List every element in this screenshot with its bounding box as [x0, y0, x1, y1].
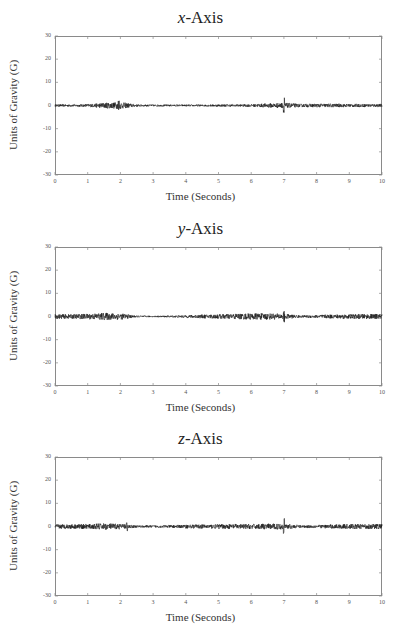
- x-tick-label: 2: [112, 389, 128, 395]
- x-tick-label: 4: [178, 178, 194, 184]
- x-tick-label: 9: [341, 599, 357, 605]
- x-tick-label: 1: [80, 389, 96, 395]
- x-tick-label: 3: [145, 389, 161, 395]
- x-tick-label: 10: [374, 178, 390, 184]
- y-tick-label: 10: [29, 289, 51, 295]
- x-tick-label: 8: [309, 178, 325, 184]
- axis-title-rest: -Axis: [185, 8, 223, 27]
- y-tick-label: -10: [29, 125, 51, 131]
- x-tick-label: 7: [276, 389, 292, 395]
- x-axis-label: Time (Seconds): [0, 611, 401, 623]
- axis-title-rest: -Axis: [185, 219, 223, 238]
- x-tick-label: 1: [80, 178, 96, 184]
- x-tick-label: 9: [341, 389, 357, 395]
- x-tick-label: 0: [47, 389, 63, 395]
- x-tick-label: 5: [211, 178, 227, 184]
- y-tick-label: 30: [29, 32, 51, 38]
- x-tick-label: 8: [309, 389, 325, 395]
- x-tick-label: 10: [374, 599, 390, 605]
- y-tick-label: 0: [29, 102, 51, 108]
- signal-trace: [55, 247, 382, 386]
- y-tick-label: 10: [29, 78, 51, 84]
- x-tick-label: 4: [178, 389, 194, 395]
- y-tick-label: -20: [29, 359, 51, 365]
- y-axis-label: Units of Gravity (G): [7, 241, 19, 391]
- x-axis-label: Time (Seconds): [0, 401, 401, 413]
- y-tick-label: 30: [29, 243, 51, 249]
- chart-title: z-Axis: [0, 429, 401, 449]
- y-tick-label: 0: [29, 523, 51, 529]
- x-tick-label: 3: [145, 599, 161, 605]
- y-tick-label: 0: [29, 313, 51, 319]
- x-tick-label: 6: [243, 599, 259, 605]
- x-tick-label: 5: [211, 389, 227, 395]
- x-tick-label: 0: [47, 599, 63, 605]
- x-tick-label: 7: [276, 178, 292, 184]
- x-tick-label: 2: [112, 599, 128, 605]
- y-tick-label: -20: [29, 569, 51, 575]
- x-tick-label: 6: [243, 389, 259, 395]
- signal-trace: [55, 457, 382, 596]
- x-tick-label: 5: [211, 599, 227, 605]
- x-tick-label: 9: [341, 178, 357, 184]
- x-axis-label: Time (Seconds): [0, 190, 401, 202]
- x-tick-label: 10: [374, 389, 390, 395]
- x-tick-label: 0: [47, 178, 63, 184]
- chart-title: x-Axis: [0, 8, 401, 28]
- y-tick-label: -10: [29, 336, 51, 342]
- x-tick-label: 8: [309, 599, 325, 605]
- y-tick-label: -30: [29, 592, 51, 598]
- y-tick-label: -20: [29, 148, 51, 154]
- signal-trace: [55, 36, 382, 175]
- x-tick-label: 1: [80, 599, 96, 605]
- y-tick-label: 20: [29, 55, 51, 61]
- x-tick-label: 7: [276, 599, 292, 605]
- x-tick-label: 4: [178, 599, 194, 605]
- y-axis-label: Units of Gravity (G): [7, 30, 19, 180]
- y-tick-label: -30: [29, 382, 51, 388]
- axis-variable: z: [178, 429, 185, 448]
- y-tick-label: -30: [29, 171, 51, 177]
- chart-title: y-Axis: [0, 219, 401, 239]
- y-tick-label: 30: [29, 453, 51, 459]
- x-tick-label: 2: [112, 178, 128, 184]
- y-tick-label: 20: [29, 476, 51, 482]
- axis-title-rest: -Axis: [185, 429, 223, 448]
- x-tick-label: 6: [243, 178, 259, 184]
- y-axis-label: Units of Gravity (G): [7, 451, 19, 601]
- y-tick-label: -10: [29, 546, 51, 552]
- y-tick-label: 10: [29, 499, 51, 505]
- y-tick-label: 20: [29, 266, 51, 272]
- x-tick-label: 3: [145, 178, 161, 184]
